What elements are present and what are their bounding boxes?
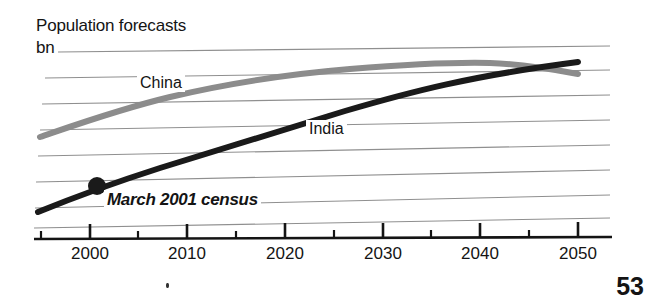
x-tick-label-2050: 2050	[559, 244, 597, 264]
page-number: 53	[616, 272, 644, 301]
gridline-8	[34, 218, 610, 228]
x-tick-label-2040: 2040	[461, 244, 499, 264]
population-forecast-chart: Population forecasts bn	[0, 0, 654, 305]
gridline-1	[58, 46, 610, 52]
gridline-5	[38, 145, 610, 156]
x-tick-label-2000: 2000	[71, 244, 109, 264]
scan-speck	[166, 283, 169, 288]
x-tick-label-2010: 2010	[168, 244, 206, 264]
x-tick-label-2020: 2020	[266, 244, 304, 264]
gridline-3	[42, 95, 610, 104]
x-axis-line	[34, 237, 612, 239]
x-tick-label-2030: 2030	[364, 244, 402, 264]
series-label-china: China	[137, 74, 185, 92]
series-label-india: India	[306, 120, 347, 138]
census-annotation-label: March 2001 census	[104, 190, 261, 210]
